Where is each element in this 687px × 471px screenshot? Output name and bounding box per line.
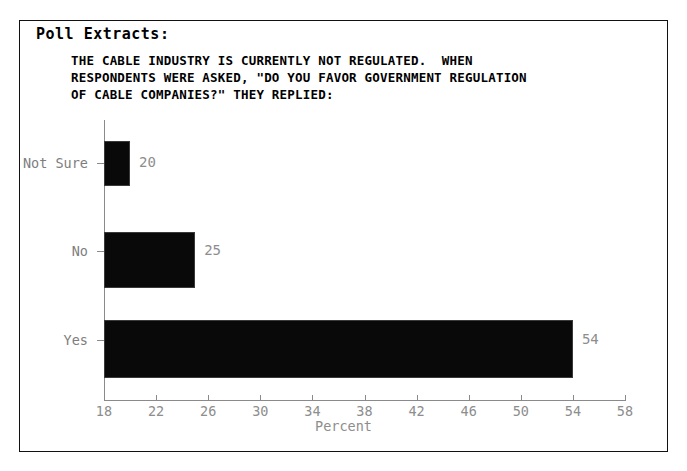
- x-axis-tick-label: 30: [240, 403, 280, 419]
- category-label-yes: Yes: [0, 332, 88, 348]
- x-axis-tick-label: 22: [136, 403, 176, 419]
- bar-yes: [104, 320, 573, 378]
- x-axis-tick: [365, 395, 366, 401]
- x-axis-tick-label: 46: [449, 403, 489, 419]
- x-axis-tick: [521, 395, 522, 401]
- x-axis-tick: [260, 395, 261, 401]
- bar-no: [104, 232, 195, 288]
- x-axis-tick-label: 34: [292, 403, 332, 419]
- x-axis-tick: [469, 395, 470, 401]
- x-axis-tick-label: 38: [345, 403, 385, 419]
- x-axis-tick-label: 58: [605, 403, 645, 419]
- x-axis-tick-label: 18: [84, 403, 124, 419]
- category-label-no: No: [0, 243, 88, 259]
- x-axis-tick: [312, 395, 313, 401]
- x-axis-tick-label: 26: [188, 403, 228, 419]
- x-axis-tick: [104, 395, 105, 401]
- x-axis-tick: [625, 395, 626, 401]
- bar-value-no: 25: [204, 242, 221, 258]
- bar-not-sure: [104, 141, 130, 186]
- x-axis-tick: [208, 395, 209, 401]
- bar-chart: Not Sure20No25Yes54182226303438424650545…: [0, 0, 687, 471]
- x-axis-title: Percent: [0, 418, 687, 434]
- x-axis-tick-label: 50: [501, 403, 541, 419]
- x-axis-tick-label: 54: [553, 403, 593, 419]
- y-axis-tick: [97, 340, 104, 341]
- bar-value-yes: 54: [582, 331, 599, 347]
- x-axis-tick-label: 42: [397, 403, 437, 419]
- bar-value-not-sure: 20: [139, 154, 156, 170]
- x-axis-tick: [573, 395, 574, 401]
- x-axis-tick: [156, 395, 157, 401]
- y-axis-tick: [97, 251, 104, 252]
- category-label-not-sure: Not Sure: [0, 155, 88, 171]
- y-axis-tick: [97, 163, 104, 164]
- poll-extracts-screenshot: Poll Extracts: THE CABLE INDUSTRY IS CUR…: [0, 0, 687, 471]
- x-axis-tick: [417, 395, 418, 401]
